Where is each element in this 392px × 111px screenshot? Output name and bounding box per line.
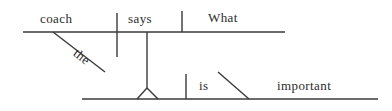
diagram-word-linking-verb: is	[199, 78, 208, 94]
diagram-line-predicate-adjective-slant	[218, 72, 249, 99]
sentence-diagram-canvas: coachthesaysWhatisimportant	[0, 0, 392, 111]
diagram-word-main-verb: says	[128, 11, 152, 27]
diagram-word-subject: coach	[40, 11, 72, 27]
diagram-line-tripod-right-leg	[147, 88, 158, 99]
diagram-word-clause-subject: What	[208, 10, 238, 26]
diagram-word-predicate-adjective: important	[277, 78, 331, 94]
diagram-line-tripod-left-leg	[137, 88, 147, 99]
